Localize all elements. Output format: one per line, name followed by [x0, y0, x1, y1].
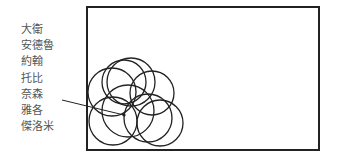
circle-6	[102, 85, 154, 137]
circle-1	[88, 68, 136, 116]
frame-rectangle	[87, 7, 319, 150]
circle-group	[88, 58, 183, 146]
circle-5	[89, 97, 137, 145]
pointer-dot	[122, 113, 125, 116]
circle-7	[124, 94, 172, 142]
overlapping-circles-diagram	[0, 0, 339, 162]
